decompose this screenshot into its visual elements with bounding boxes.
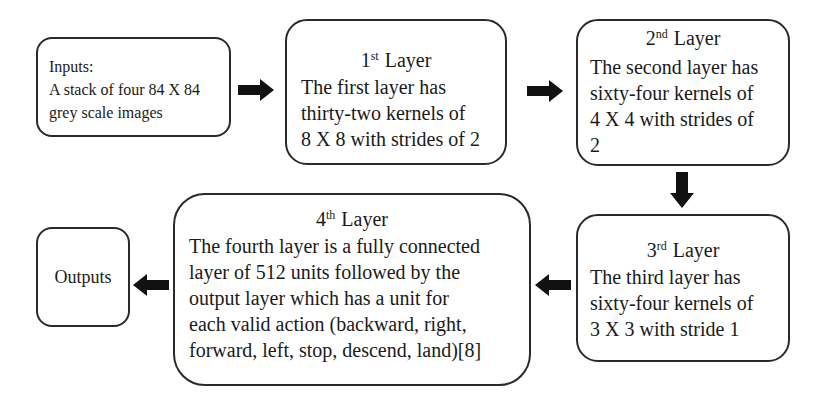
layer1-ordinal: 1 — [361, 49, 371, 71]
layer4-box: 4thLayer The fourth layer is a fully con… — [173, 193, 531, 386]
inputs-title: Inputs: — [49, 55, 229, 78]
layer3-line-3: 3 X 3 with stride 1 — [590, 316, 788, 342]
inputs-line-1: A stack of four 84 X 84 — [49, 78, 229, 101]
layer4-line-1: The fourth layer is a fully connected — [189, 233, 529, 259]
layer3-ordinal-suffix: rd — [657, 239, 667, 253]
layer2-line-4: 2 — [590, 132, 788, 158]
arrow-right-icon — [527, 80, 563, 102]
layer3-line-1: The third layer has — [590, 264, 788, 290]
arrow-left-icon — [535, 274, 571, 296]
layer4-ordinal: 4 — [316, 208, 326, 230]
layer2-line-1: The second layer has — [590, 54, 788, 80]
layer1-heading: 1stLayer — [301, 48, 505, 72]
layer4-line-5: forward, left, stop, descend, land)[8] — [189, 337, 529, 363]
inputs-line-2: grey scale images — [49, 101, 229, 124]
outputs-label: Outputs — [54, 264, 111, 290]
outputs-box: Outputs — [36, 227, 130, 327]
layer1-title: Layer — [385, 49, 432, 71]
layer2-line-2: sixty-four kernels of — [590, 80, 788, 106]
layer4-heading: 4thLayer — [189, 207, 529, 231]
layer3-ordinal: 3 — [647, 239, 657, 261]
layer2-ordinal: 2 — [646, 27, 656, 49]
layer4-line-4: each valid action (backward, right, — [189, 311, 529, 337]
layer1-line-3: 8 X 8 with strides of 2 — [301, 126, 505, 152]
layer2-ordinal-suffix: nd — [656, 27, 668, 41]
arrow-left-icon — [133, 274, 169, 296]
arrow-right-icon — [238, 79, 274, 101]
layer1-line-2: thirty-two kernels of — [301, 100, 505, 126]
layer2-heading: 2ndLayer — [590, 26, 788, 50]
layer4-line-3: output layer which has a unit for — [189, 285, 529, 311]
layer2-title: Layer — [674, 27, 721, 49]
layer1-line-1: The first layer has — [301, 74, 505, 100]
layer2-box: 2ndLayer The second layer has sixty-four… — [576, 19, 790, 166]
layer3-line-2: sixty-four kernels of — [590, 290, 788, 316]
layer3-title: Layer — [673, 239, 720, 261]
layer3-heading: 3rdLayer — [590, 238, 788, 262]
layer1-ordinal-suffix: st — [371, 49, 379, 63]
layer4-title: Layer — [341, 208, 388, 230]
layer2-line-3: 4 X 4 with strides of — [590, 106, 788, 132]
layer3-box: 3rdLayer The third layer has sixty-four … — [576, 214, 790, 362]
arrow-down-icon — [670, 172, 694, 208]
inputs-box: Inputs: A stack of four 84 X 84 grey sca… — [36, 37, 231, 137]
layer4-ordinal-suffix: th — [326, 208, 335, 222]
layer4-line-2: layer of 512 units followed by the — [189, 259, 529, 285]
layer1-box: 1stLayer The first layer has thirty-two … — [285, 19, 507, 165]
